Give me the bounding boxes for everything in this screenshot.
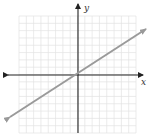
x-axis-label: x (141, 77, 146, 87)
y-axis-label: y (83, 3, 90, 13)
coordinate-plane: y x (0, 0, 150, 136)
